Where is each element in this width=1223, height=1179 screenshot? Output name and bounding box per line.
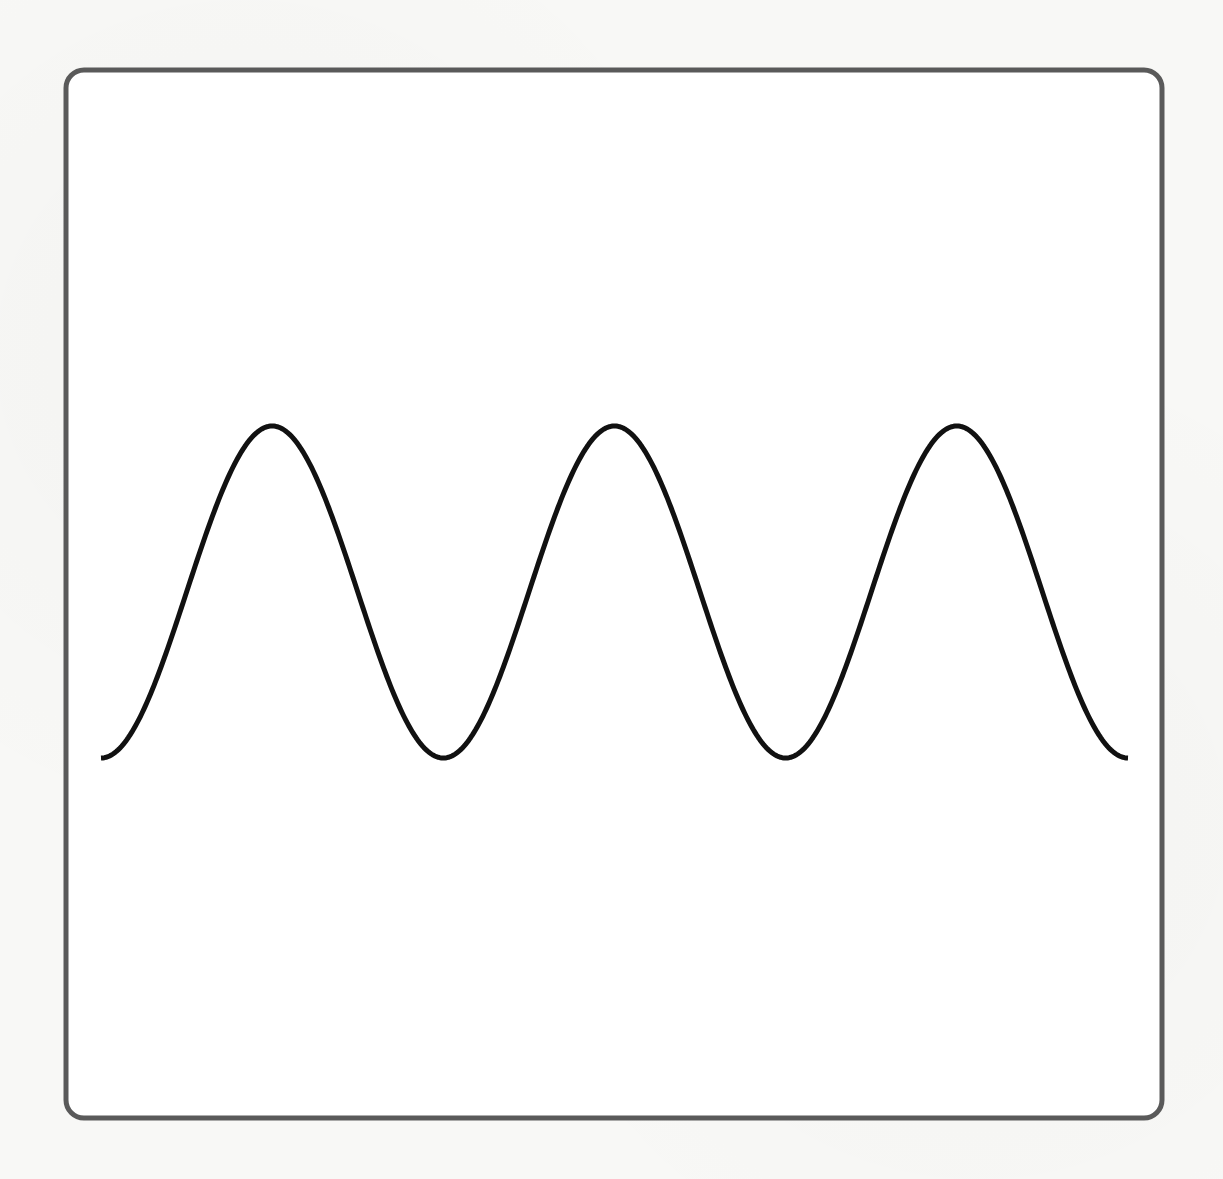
sine-wave-figure [0,0,1223,1179]
rounded-frame [66,70,1162,1118]
